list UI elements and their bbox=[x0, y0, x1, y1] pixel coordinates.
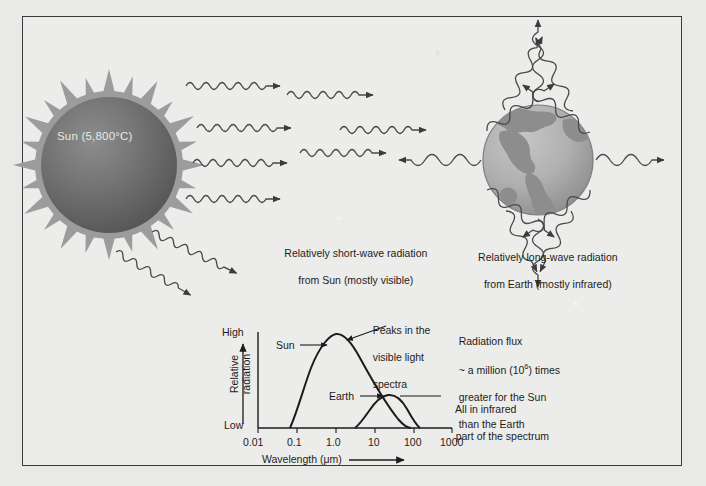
x-tick-4: 100 bbox=[404, 436, 422, 449]
peaks-annotation-line3: spectra bbox=[373, 378, 407, 390]
x-tick-1: 0.1 bbox=[287, 436, 302, 449]
flux-line4: than the Earth bbox=[459, 418, 525, 430]
figure-canvas: Sun (5,800°C) Relatively short-wave radi… bbox=[0, 0, 706, 486]
x-tick-3: 10 bbox=[368, 436, 380, 449]
flux-line3: greater for the Sun bbox=[459, 391, 547, 403]
x-tick-0: 0.01 bbox=[243, 436, 263, 449]
earth-curve-label: Earth bbox=[329, 390, 354, 403]
x-axis-title: Wavelength (μm) bbox=[262, 453, 342, 466]
flux-line2-pre: ~ a million (10 bbox=[459, 364, 525, 376]
x-tick-2: 1.0 bbox=[326, 436, 341, 449]
flux-line1: Radiation flux bbox=[459, 335, 523, 347]
peaks-annotation-line1: Peaks in the bbox=[373, 324, 431, 336]
peaks-annotation: Peaks in the visible light spectra bbox=[361, 311, 430, 405]
y-axis-title: Relative radiation bbox=[228, 326, 252, 422]
chart-x-ticks bbox=[258, 428, 452, 433]
spectral-chart bbox=[0, 0, 706, 486]
flux-line2-post: ) times bbox=[529, 364, 561, 376]
sun-curve-label: Sun bbox=[276, 339, 295, 352]
radiation-flux-annotation: Radiation flux ~ a million (106) times g… bbox=[447, 322, 560, 444]
peaks-annotation-line2: visible light bbox=[373, 351, 424, 363]
